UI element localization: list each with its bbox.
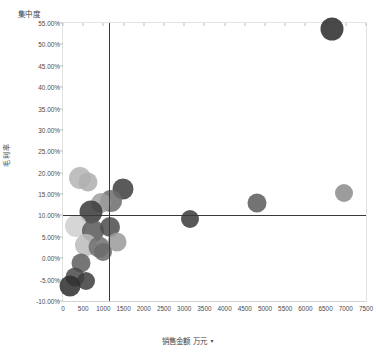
x-axis-tick-mark xyxy=(224,23,225,26)
x-axis-tick-label: 4500 xyxy=(238,305,252,312)
x-axis-tick-label: 7000 xyxy=(339,305,353,312)
vertical-reference-line xyxy=(109,23,110,301)
x-axis-tick-mark xyxy=(143,23,144,26)
x-axis-title-label: 销售金额 万元 xyxy=(162,337,206,346)
x-axis-tick-mark xyxy=(123,23,124,26)
y-axis-tick-label: 35.00% xyxy=(38,105,60,112)
chevron-down-icon[interactable]: ▾ xyxy=(211,337,214,344)
x-axis-tick-label: 4000 xyxy=(217,305,231,312)
y-axis-tick-mark xyxy=(60,194,63,195)
y-axis-tick-label: 50.00% xyxy=(38,41,60,48)
chart-title: 集中度 xyxy=(18,8,40,19)
y-axis-tick-mark xyxy=(60,236,63,237)
y-axis-tick-mark xyxy=(60,151,63,152)
x-axis-tick-label: 1500 xyxy=(116,305,130,312)
y-axis-tick-label: 20.00% xyxy=(38,169,60,176)
y-axis-tick-label: 10.00% xyxy=(38,212,60,219)
x-axis-tick-mark xyxy=(103,23,104,26)
data-point-bubble[interactable] xyxy=(79,173,98,192)
x-axis-tick-label: 6500 xyxy=(318,305,332,312)
x-axis-tick-label: 2000 xyxy=(137,305,151,312)
y-axis-tick-mark xyxy=(60,172,63,173)
x-axis-tick-label: 3500 xyxy=(197,305,211,312)
x-axis-line xyxy=(63,301,366,302)
y-axis-title: 毛利率 xyxy=(1,133,11,177)
x-axis-tick-label: 6000 xyxy=(298,305,312,312)
x-axis-tick-mark xyxy=(305,23,306,26)
x-axis-tick-label: 7500 xyxy=(359,305,373,312)
y-axis-tick-label: -10.00% xyxy=(36,298,60,305)
x-axis-tick-mark xyxy=(204,23,205,26)
y-axis-tick-label: 25.00% xyxy=(38,148,60,155)
x-axis-tick-mark xyxy=(366,23,367,26)
x-axis-tick-mark xyxy=(285,23,286,26)
y-axis-tick-mark xyxy=(60,301,63,302)
x-axis-tick-label: 0 xyxy=(61,305,65,312)
data-point-bubble[interactable] xyxy=(181,210,199,228)
y-axis-tick-label: 5.00% xyxy=(42,233,60,240)
x-axis-tick-mark xyxy=(244,23,245,26)
x-axis-tick-mark xyxy=(83,23,84,26)
horizontal-reference-line xyxy=(63,215,366,216)
x-axis-tick-mark xyxy=(265,23,266,26)
x-axis-tick-label: 500 xyxy=(78,305,89,312)
y-axis-tick-label: 15.00% xyxy=(38,191,60,198)
y-axis-tick-label: -5.00% xyxy=(40,276,60,283)
x-axis-tick-label: 2500 xyxy=(157,305,171,312)
y-axis-tick-mark xyxy=(60,87,63,88)
x-axis-tick-label: 1000 xyxy=(96,305,110,312)
y-axis-tick-label: 55.00% xyxy=(38,20,60,27)
y-axis-tick-mark xyxy=(60,129,63,130)
y-axis-tick-label: 30.00% xyxy=(38,126,60,133)
x-axis-tick-label: 3000 xyxy=(177,305,191,312)
y-axis-tick-mark xyxy=(60,65,63,66)
bubble-chart: 集中度 毛利率 55.00%50.00%45.00%40.00%35.00%30… xyxy=(0,0,376,358)
data-point-bubble[interactable] xyxy=(60,275,81,296)
data-point-bubble[interactable] xyxy=(335,184,353,202)
x-axis-tick-mark xyxy=(164,23,165,26)
x-axis-tick-mark xyxy=(184,23,185,26)
x-axis-tick-label: 5000 xyxy=(258,305,272,312)
y-axis-tick-mark xyxy=(60,44,63,45)
y-axis-tick-label: 40.00% xyxy=(38,84,60,91)
x-axis-tick-label: 5500 xyxy=(278,305,292,312)
data-point-bubble[interactable] xyxy=(320,18,343,41)
plot-area: 55.00%50.00%45.00%40.00%35.00%30.00%25.0… xyxy=(62,22,367,302)
y-axis-tick-label: 45.00% xyxy=(38,62,60,69)
y-axis-tick-label: 0.00% xyxy=(42,255,60,262)
data-point-bubble[interactable] xyxy=(247,194,266,213)
x-axis-tick-mark xyxy=(345,23,346,26)
x-axis-tick-mark xyxy=(63,23,64,26)
x-axis-title-control[interactable]: 销售金额 万元▾ xyxy=(0,335,376,346)
y-axis-tick-mark xyxy=(60,258,63,259)
y-axis-tick-mark xyxy=(60,108,63,109)
